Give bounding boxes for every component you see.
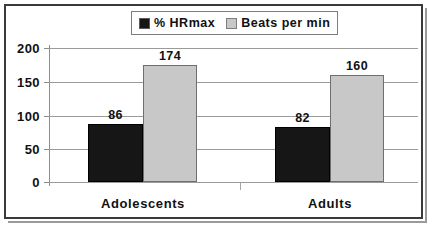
gridline-200: 200 <box>49 48 418 49</box>
y-axis-label-200: 200 <box>17 41 40 56</box>
y-axis-label-50: 50 <box>25 142 40 157</box>
category-separator-tick <box>240 183 241 190</box>
legend-swatch-icon-hrmax <box>139 18 150 29</box>
y-tick-mark-200 <box>44 48 49 49</box>
bar-value-adolescents-hrmax: 86 <box>108 108 123 122</box>
y-tick-mark-150 <box>44 82 49 83</box>
bar-adults-beats-per-min[interactable]: 160 <box>330 75 384 182</box>
bar-adults-hrmax[interactable]: 82 <box>275 127 330 182</box>
bar-value-adults-beats-per-min: 160 <box>346 59 368 73</box>
legend-entry-beats-per-min[interactable]: Beats per min <box>226 16 330 30</box>
y-tick-mark-100 <box>44 116 49 117</box>
bar-value-adults-hrmax: 82 <box>295 111 310 125</box>
legend-entry-hrmax[interactable]: % HRmax <box>139 16 215 30</box>
legend-label-hrmax: % HRmax <box>154 16 215 30</box>
frame-shadow-bottom <box>8 221 427 223</box>
x-axis-label-adults: Adults <box>308 196 352 211</box>
plot-area: 200 150 100 50 0 86 174 82 <box>49 48 418 183</box>
legend-label-beats-per-min: Beats per min <box>241 16 330 30</box>
y-tick-mark-0 <box>44 182 49 183</box>
gridline-0: 0 <box>49 182 418 183</box>
bar-adolescents-beats-per-min[interactable]: 174 <box>143 65 197 182</box>
frame-shadow-right <box>425 8 427 223</box>
y-tick-mark-50 <box>44 149 49 150</box>
chart-legend: % HRmax Beats per min <box>131 11 338 35</box>
y-axis-label-100: 100 <box>17 109 40 124</box>
x-axis-label-adolescents: Adolescents <box>101 196 185 211</box>
y-axis-label-150: 150 <box>17 75 40 90</box>
bar-adolescents-hrmax[interactable]: 86 <box>88 124 143 182</box>
legend-swatch-icon-beats-per-min <box>226 18 237 29</box>
bar-value-adolescents-beats-per-min: 174 <box>159 49 181 63</box>
y-axis-label-0: 0 <box>32 175 40 190</box>
bar-chart: % HRmax Beats per min 200 150 100 50 <box>0 0 431 226</box>
